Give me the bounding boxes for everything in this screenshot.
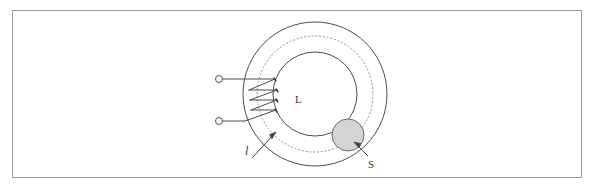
figure-container: L l S — [0, 0, 596, 191]
sphere-label: S — [368, 158, 374, 170]
terminal-top[interactable] — [216, 76, 223, 83]
terminal-bottom[interactable] — [216, 118, 223, 125]
coil-label: L — [295, 93, 302, 105]
toroid-diagram-svg: L l S — [0, 0, 596, 191]
